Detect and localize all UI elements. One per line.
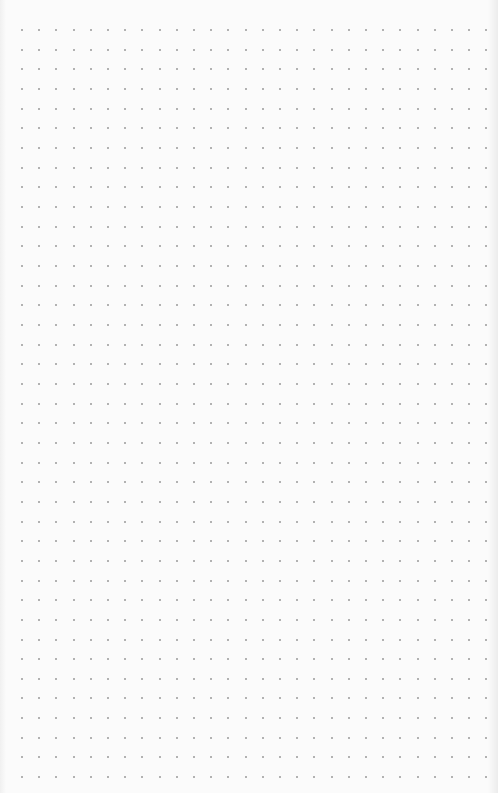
grid-dot — [21, 639, 23, 641]
grid-dot — [262, 481, 264, 483]
grid-dot — [176, 481, 178, 483]
grid-dot — [21, 68, 23, 70]
grid-dot — [141, 678, 143, 680]
grid-dot — [313, 68, 315, 70]
grid-dot — [176, 363, 178, 365]
grid-dot — [348, 540, 350, 542]
grid-dot — [262, 678, 264, 680]
grid-dot — [73, 344, 75, 346]
grid-dot — [245, 265, 247, 267]
grid-dot — [434, 49, 436, 51]
grid-dot — [434, 697, 436, 699]
grid-dot — [468, 678, 470, 680]
grid-dot — [485, 501, 487, 503]
grid-dot — [468, 717, 470, 719]
grid-dot — [210, 521, 212, 523]
grid-dot — [38, 324, 40, 326]
grid-dot — [417, 68, 419, 70]
grid-dot — [107, 29, 109, 31]
grid-dot — [124, 49, 126, 51]
grid-dot — [227, 756, 229, 758]
grid-dot — [227, 285, 229, 287]
grid-dot — [296, 49, 298, 51]
grid-dot — [227, 245, 229, 247]
grid-dot — [262, 206, 264, 208]
grid-dot — [365, 717, 367, 719]
grid-dot — [193, 540, 195, 542]
grid-dot — [210, 756, 212, 758]
grid-dot — [176, 501, 178, 503]
grid-dot — [193, 619, 195, 621]
grid-dot — [417, 580, 419, 582]
grid-dot — [245, 776, 247, 778]
grid-dot — [485, 540, 487, 542]
grid-dot — [73, 540, 75, 542]
grid-dot — [124, 304, 126, 306]
grid-dot — [124, 108, 126, 110]
grid-dot — [313, 245, 315, 247]
grid-dot — [331, 580, 333, 582]
grid-dot — [468, 186, 470, 188]
grid-dot — [176, 697, 178, 699]
grid-dot — [485, 304, 487, 306]
grid-dot — [279, 521, 281, 523]
grid-dot — [227, 226, 229, 228]
grid-dot — [451, 697, 453, 699]
grid-dot — [21, 481, 23, 483]
grid-dot — [73, 580, 75, 582]
grid-dot — [468, 481, 470, 483]
grid-dot — [73, 49, 75, 51]
grid-dot — [176, 324, 178, 326]
grid-dot — [227, 737, 229, 739]
grid-dot — [434, 29, 436, 31]
grid-dot — [382, 756, 384, 758]
grid-dot — [313, 127, 315, 129]
grid-dot — [141, 697, 143, 699]
grid-dot — [124, 599, 126, 601]
grid-dot — [90, 206, 92, 208]
grid-dot — [141, 245, 143, 247]
grid-dot — [73, 363, 75, 365]
grid-dot — [107, 678, 109, 680]
grid-dot — [399, 560, 401, 562]
grid-dot — [176, 619, 178, 621]
grid-dot — [124, 481, 126, 483]
grid-dot — [331, 186, 333, 188]
grid-dot — [365, 599, 367, 601]
grid-dot — [434, 619, 436, 621]
grid-dot — [38, 481, 40, 483]
grid-dot — [107, 619, 109, 621]
grid-dot — [382, 599, 384, 601]
grid-dot — [313, 324, 315, 326]
grid-dot — [107, 344, 109, 346]
grid-dot — [296, 639, 298, 641]
grid-dot — [313, 737, 315, 739]
grid-dot — [193, 49, 195, 51]
grid-dot — [38, 462, 40, 464]
grid-dot — [210, 363, 212, 365]
grid-dot — [279, 304, 281, 306]
grid-dot — [124, 147, 126, 149]
grid-dot — [141, 167, 143, 169]
grid-dot — [55, 776, 57, 778]
grid-dot — [227, 29, 229, 31]
grid-dot — [262, 639, 264, 641]
grid-dot — [21, 756, 23, 758]
grid-dot — [245, 304, 247, 306]
grid-dot — [313, 481, 315, 483]
grid-dot — [417, 678, 419, 680]
grid-dot — [485, 697, 487, 699]
grid-dot — [176, 304, 178, 306]
grid-dot — [434, 422, 436, 424]
grid-dot — [245, 422, 247, 424]
grid-dot — [434, 108, 436, 110]
grid-dot — [262, 147, 264, 149]
grid-dot — [227, 462, 229, 464]
grid-dot — [365, 658, 367, 660]
grid-dot — [141, 717, 143, 719]
grid-dot — [468, 756, 470, 758]
grid-dot — [331, 599, 333, 601]
grid-dot — [90, 108, 92, 110]
grid-dot — [107, 304, 109, 306]
grid-dot — [159, 29, 161, 31]
